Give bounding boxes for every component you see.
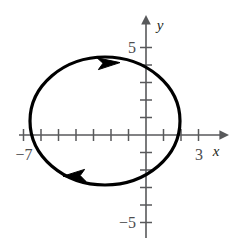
y-tick-label--5: −5 [119, 214, 136, 231]
direction-arrow-top-icon [97, 58, 120, 70]
y-axis [140, 23, 152, 238]
coordinate-plane-plot: 5 −5 −7 3 x y [0, 0, 239, 242]
ellipse-curve [30, 57, 180, 185]
x-axis-label: x [212, 143, 220, 159]
x-axis [19, 129, 221, 141]
y-tick-label-5: 5 [128, 39, 136, 56]
x-tick-label-3: 3 [195, 146, 203, 163]
x-tick-label--7: −7 [15, 146, 32, 163]
y-axis-label: y [155, 17, 164, 33]
parametric-ellipse-figure: 5 −5 −7 3 x y [0, 0, 239, 242]
